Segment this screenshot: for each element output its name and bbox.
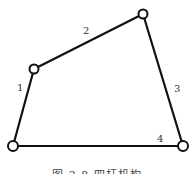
figure-caption: 图 2-8 四杆机构	[0, 166, 194, 174]
link-2	[34, 14, 143, 69]
link-label-4: 4	[157, 133, 163, 144]
four-bar-linkage-diagram: 1 2 3 4	[0, 0, 194, 174]
link-label-3: 3	[174, 83, 180, 94]
link-label-1: 1	[17, 82, 23, 93]
link-1	[13, 69, 34, 146]
joint-b-icon	[139, 10, 148, 19]
joint-a-icon	[30, 65, 39, 74]
joint-c-icon	[178, 141, 188, 151]
joint-d-icon	[8, 141, 18, 151]
link-3	[143, 14, 183, 146]
link-label-2: 2	[83, 25, 89, 36]
